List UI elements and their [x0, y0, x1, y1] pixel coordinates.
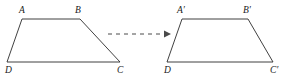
trapezoid-a-prime-b-prime-c-prime-d-outline: [167, 19, 273, 62]
vertex-label-a: A: [18, 5, 25, 15]
figure-canvas: A B C D A′ B′ C′ D: [0, 0, 287, 77]
vertex-label-c: C: [117, 65, 124, 75]
vertex-label-c-prime: C′: [270, 65, 279, 75]
transformation-arrow-group: [108, 31, 171, 38]
vertex-label-a-prime: A′: [176, 5, 186, 15]
image-shape-group: A′ B′ C′ D: [163, 5, 279, 75]
vertex-label-b-prime: B′: [243, 5, 252, 15]
vertex-label-d-image: D: [163, 65, 171, 75]
trapezoid-abcd-outline: [7, 19, 120, 62]
vertex-label-d: D: [4, 65, 12, 75]
vertex-label-b: B: [75, 5, 81, 15]
preimage-shape-group: A B C D: [4, 5, 124, 75]
geometry-figure: A B C D A′ B′ C′ D: [0, 0, 287, 77]
transformation-arrow-head-icon: [164, 31, 171, 38]
